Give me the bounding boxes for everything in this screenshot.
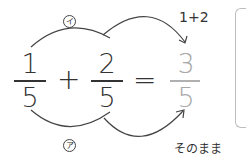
numerator-link-arc [31,28,110,47]
result-denominator: 5 [171,84,201,111]
term2-denominator: 5 [92,84,122,111]
term2-numerator: 2 [92,50,122,77]
marker-i: イ [63,15,76,28]
numerator-note: 1+2 [179,10,209,24]
equals-operator: = [133,66,156,94]
denominator-note: そのまま [174,143,222,155]
result-numerator: 3 [171,50,201,77]
term1-denominator: 5 [15,84,45,111]
plus-operator: + [57,66,80,94]
marker-a: ア [63,139,76,152]
fraction-addition-diagram: 1 5 + 2 5 = 3 5 イ ア 1+2 そのまま [0,0,246,165]
side-panel-frame [235,8,246,128]
denominator-arrow [104,111,183,136]
numerator-arrow [103,17,185,42]
term1-numerator: 1 [15,50,45,77]
